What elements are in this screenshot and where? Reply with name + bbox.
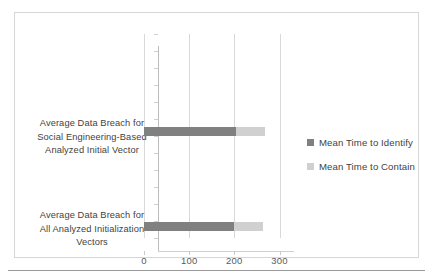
legend-label: Mean Time to Contain <box>319 161 415 172</box>
category-label-line: Average Data Breach for <box>31 117 153 131</box>
bottom-divider-rule <box>8 270 425 271</box>
category-label-social-engineering: Average Data Breach forSocial Engineerin… <box>31 117 153 158</box>
y-axis-tick <box>154 51 158 52</box>
bar-segment-identify <box>144 127 236 136</box>
y-axis-tick <box>154 136 158 137</box>
y-axis-tick <box>154 102 158 103</box>
x-axis-line <box>158 251 294 252</box>
x-axis-label-200: 200 <box>219 255 249 266</box>
chart-frame: Average Data Breach forSocial Engineerin… <box>14 12 419 258</box>
gridline-200 <box>234 34 235 238</box>
legend-swatch-icon <box>307 163 314 170</box>
y-axis-tick <box>154 153 158 154</box>
category-label-all-vectors: Average Data Breach forAll Analyzed Init… <box>31 209 153 250</box>
category-label-line: Social Engineering-Based <box>31 131 153 145</box>
legend-item[interactable]: Mean Time to Contain <box>307 157 427 175</box>
legend-item[interactable]: Mean Time to Identify <box>307 133 427 151</box>
y-axis-tick <box>154 85 158 86</box>
bar-segment-contain <box>236 127 265 136</box>
gridline-300 <box>280 34 281 238</box>
y-axis-tick <box>154 204 158 205</box>
legend-label: Mean Time to Identify <box>319 137 413 148</box>
x-axis-label-0: 0 <box>129 255 159 266</box>
y-axis-tick <box>154 119 158 120</box>
bar-segment-identify <box>144 222 234 231</box>
y-axis-tick <box>154 238 158 239</box>
y-axis-tick <box>154 68 158 69</box>
category-label-line: Average Data Breach for <box>31 209 153 223</box>
x-axis-label-100: 100 <box>174 255 204 266</box>
y-axis-tick <box>154 187 158 188</box>
category-label-line: Analyzed Initial Vector <box>31 144 153 158</box>
y-axis-line <box>158 46 159 251</box>
gridline-100 <box>189 34 190 238</box>
x-axis-label-300: 300 <box>265 255 295 266</box>
legend-swatch-icon <box>307 139 314 146</box>
y-axis-tick <box>154 34 158 35</box>
category-label-line: Vectors <box>31 236 153 250</box>
figure: Average Data Breach forSocial Engineerin… <box>0 0 433 280</box>
bar-segment-contain <box>234 222 263 231</box>
legend: Mean Time to IdentifyMean Time to Contai… <box>307 133 427 181</box>
y-axis-tick <box>154 170 158 171</box>
category-label-line: All Analyzed Initialization <box>31 223 153 237</box>
